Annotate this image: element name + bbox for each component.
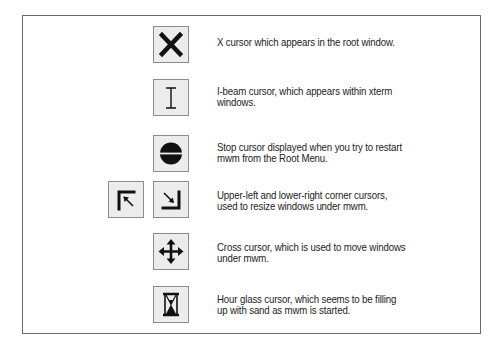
x-cursor-icon: [154, 27, 188, 62]
hourglass-cursor-box: [153, 286, 189, 323]
cross-move-cursor-box: [153, 233, 189, 270]
cross-move-cursor-icon: [154, 234, 188, 269]
hourglass-cursor-icon: [154, 287, 188, 322]
upper-left-corner-cursor-box: [108, 181, 144, 218]
stop-cursor-description: Stop cursor displayed when you try to re…: [217, 142, 429, 164]
corner-cursors-description: Upper-left and lower-right corner cursor…: [217, 190, 429, 212]
upper-left-corner-cursor-icon: [109, 182, 143, 217]
hourglass-cursor-description: Hour glass cursor, which seems to be fil…: [217, 294, 429, 316]
x-cursor-box: [153, 26, 189, 63]
lower-right-corner-cursor-icon: [154, 182, 188, 217]
lower-right-corner-cursor-box: [153, 181, 189, 218]
x-cursor-description: X cursor which appears in the root windo…: [217, 37, 429, 48]
figure-frame: [22, 15, 481, 334]
i-beam-cursor-icon: [154, 80, 188, 115]
i-beam-cursor-box: [153, 79, 189, 116]
cross-cursor-description: Cross cursor, which is used to move wind…: [217, 242, 429, 264]
stop-cursor-icon: [154, 136, 188, 171]
i-beam-cursor-description: I-beam cursor, which appears within xter…: [217, 86, 429, 108]
stop-cursor-box: [153, 135, 189, 172]
